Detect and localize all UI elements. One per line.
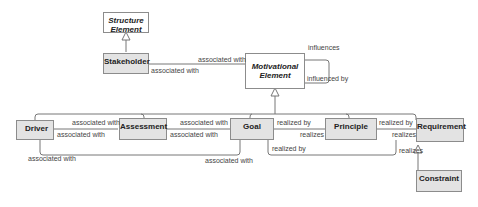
constraint-label: Constraint (417, 171, 461, 183)
relation-label: influenced by (307, 75, 348, 83)
relation-label: associated with (151, 67, 199, 75)
relation-label: realized by (272, 145, 306, 153)
goal-box[interactable]: Goal (230, 118, 274, 140)
requirement-label: Requirement (417, 119, 463, 131)
stakeholder-box[interactable]: Stakeholder (103, 53, 149, 74)
connector-lines (0, 0, 478, 207)
relation-label: associated with (205, 157, 253, 165)
structure-element-box[interactable]: StructureElement (103, 12, 149, 33)
relation-label: influences (308, 44, 340, 52)
assessment-label: Assessment (120, 119, 166, 131)
relation-label: associated with (198, 56, 246, 64)
principle-label: Principle (326, 119, 376, 131)
relation-label: realized by (379, 119, 413, 127)
structure-element-label: StructureElement (104, 13, 148, 34)
motivational-element-box[interactable]: MotivationalElement (245, 53, 305, 89)
relation-label: realizes (399, 147, 423, 155)
assessment-box[interactable]: Assessment (119, 118, 167, 140)
constraint-box[interactable]: Constraint (416, 170, 462, 192)
driver-box[interactable]: Driver (16, 120, 54, 140)
relation-label: realizes (392, 131, 416, 139)
relation-label: realizes (300, 131, 324, 139)
principle-box[interactable]: Principle (325, 118, 377, 140)
relation-label: associated with (72, 119, 120, 127)
relation-label: associated with (180, 119, 228, 127)
motivational-element-label: MotivationalElement (246, 54, 304, 80)
goal-label: Goal (231, 119, 273, 131)
driver-label: Driver (17, 121, 53, 133)
requirement-box[interactable]: Requirement (416, 118, 464, 142)
relation-label: associated with (57, 131, 105, 139)
relation-label: realized by (277, 119, 311, 127)
stakeholder-label: Stakeholder (104, 54, 148, 66)
relation-label: associated with (28, 155, 76, 163)
relation-label: associated with (170, 131, 218, 139)
generalization-arrow-icon (271, 88, 279, 96)
